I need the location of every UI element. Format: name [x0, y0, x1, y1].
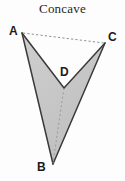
vertex-label-d: D	[60, 66, 69, 78]
polygon-diagram	[0, 0, 125, 181]
polygon-fill	[22, 33, 105, 164]
vertex-label-c: C	[108, 31, 117, 43]
concave-polygon-figure: Concave A D C B	[0, 0, 125, 181]
vertex-label-a: A	[9, 25, 18, 37]
vertex-label-b: B	[37, 161, 46, 173]
diagonal-AC	[23, 33, 104, 43]
